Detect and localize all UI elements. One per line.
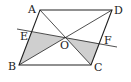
label-f: F (104, 34, 112, 47)
label-c: C (94, 61, 102, 74)
label-e: E (20, 30, 28, 43)
label-b: B (8, 60, 16, 73)
label-a: A (27, 3, 37, 16)
geometry-diagram: A D E O F B C (0, 0, 131, 82)
label-o: O (60, 39, 69, 52)
label-d: D (114, 4, 123, 17)
